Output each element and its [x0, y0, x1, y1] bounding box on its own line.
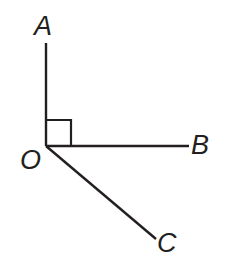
- point-label-o: O: [20, 147, 41, 174]
- geometry-figure: A B C O: [0, 0, 248, 269]
- point-label-c: C: [157, 230, 177, 257]
- ray-oc: [46, 146, 156, 239]
- right-angle-marker-icon: [46, 120, 71, 146]
- point-label-a: A: [34, 13, 52, 40]
- point-label-b: B: [191, 132, 209, 159]
